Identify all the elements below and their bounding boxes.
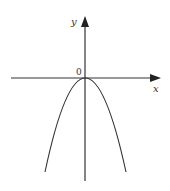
origin-label: 0 — [76, 67, 82, 77]
diagram-canvas: y x 0 — [0, 0, 170, 191]
y-axis-label: y — [70, 16, 77, 27]
x-axis-label: x — [153, 83, 159, 94]
x-axis-arrow-icon — [150, 74, 161, 82]
graph-svg: y x 0 — [0, 0, 170, 191]
y-axis-arrow-icon — [81, 16, 89, 27]
